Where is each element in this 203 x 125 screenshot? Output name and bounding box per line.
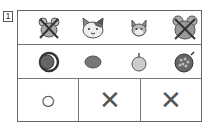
calico-cat-icon: [76, 11, 110, 44]
fruit-row: [18, 45, 201, 79]
hamster-crossed-icon: [32, 11, 66, 44]
answer-cell-1[interactable]: ○: [18, 79, 79, 121]
tangerine-icon: [76, 45, 110, 78]
answer-cell-3[interactable]: ✕: [141, 79, 201, 121]
cross-mark: ✕: [99, 87, 121, 113]
pomegranate-icon: [168, 45, 202, 78]
question-number: 1: [3, 11, 13, 22]
dark-plum-icon: [32, 45, 66, 78]
hamster-crossed-icon: [168, 11, 202, 44]
squirrel-icon: [122, 11, 156, 44]
answer-cell-2[interactable]: ✕: [79, 79, 141, 121]
circle-mark: ○: [40, 87, 56, 113]
answer-sheet: ○ ✕ ✕: [17, 10, 202, 122]
apple-icon: [122, 45, 156, 78]
animal-row: [18, 11, 201, 45]
answer-row: ○ ✕ ✕: [18, 79, 201, 121]
cross-mark: ✕: [160, 87, 182, 113]
